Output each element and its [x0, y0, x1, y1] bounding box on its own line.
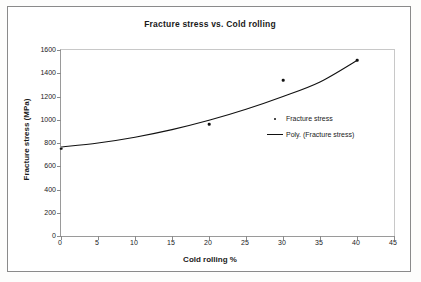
- y-tick-label: 600: [22, 162, 56, 169]
- legend-label-fracture-stress: Fracture stress: [286, 111, 333, 127]
- y-tick-label: 0: [22, 232, 56, 239]
- legend-label-poly-fracture-stress: Poly. (Fracture stress): [286, 127, 354, 143]
- legend-item-fracture-stress: Fracture stress: [264, 111, 394, 127]
- y-tick-label: 400: [22, 185, 56, 192]
- x-axis-tick-labels: 051015202530354045: [60, 239, 393, 253]
- y-tick-mark: [57, 190, 61, 191]
- y-tick-mark: [57, 213, 61, 214]
- x-tick-label: 15: [159, 239, 183, 246]
- x-tick-label: 0: [48, 239, 72, 246]
- x-tick-label: 20: [196, 239, 220, 246]
- x-tick-label: 25: [233, 239, 257, 246]
- data-point-marker: [60, 148, 63, 151]
- x-tick-label: 45: [381, 239, 405, 246]
- x-axis-title: Cold rolling %: [8, 255, 412, 264]
- y-tick-mark: [57, 166, 61, 167]
- chart-legend: Fracture stress Poly. (Fracture stress): [264, 111, 394, 143]
- data-point-marker: [356, 59, 359, 62]
- y-tick-label: 200: [22, 208, 56, 215]
- chart-title: Fracture stress vs. Cold rolling: [8, 19, 412, 29]
- x-tick-label: 30: [270, 239, 294, 246]
- y-tick-mark: [57, 73, 61, 74]
- x-tick-label: 40: [344, 239, 368, 246]
- y-tick-mark: [57, 143, 61, 144]
- x-tick-label: 35: [307, 239, 331, 246]
- legend-item-poly-fracture-stress: Poly. (Fracture stress): [264, 127, 394, 143]
- y-tick-mark: [57, 50, 61, 51]
- y-tick-label: 800: [22, 139, 56, 146]
- y-axis-tick-labels: 02004006008001000120014001600: [18, 49, 56, 235]
- legend-dot-marker-icon: [264, 111, 286, 127]
- y-tick-label: 1400: [22, 69, 56, 76]
- screenshot-page: Fracture stress vs. Cold rolling Fractur…: [0, 0, 421, 282]
- x-tick-label: 5: [85, 239, 109, 246]
- x-tick-label: 10: [122, 239, 146, 246]
- y-tick-label: 1200: [22, 92, 56, 99]
- y-tick-label: 1600: [22, 46, 56, 53]
- y-tick-mark: [57, 97, 61, 98]
- y-tick-mark: [57, 120, 61, 121]
- y-tick-label: 1000: [22, 115, 56, 122]
- legend-line-marker-icon: [264, 127, 286, 143]
- data-point-marker: [282, 79, 285, 82]
- data-point-marker: [208, 123, 211, 126]
- chart-frame: Fracture stress vs. Cold rolling Fractur…: [7, 6, 411, 272]
